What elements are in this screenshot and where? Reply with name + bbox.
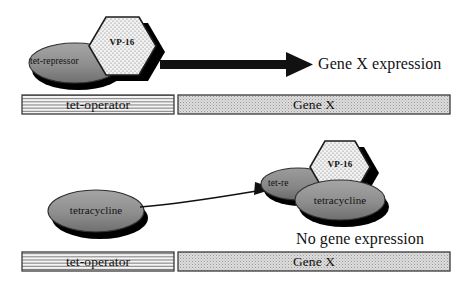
vp16-hexagon-label: VP-16 xyxy=(98,38,146,47)
diagram-labels: VP-16 tet-repressor Gene X expression te… xyxy=(0,0,473,284)
gene-x-label-2: Gene X xyxy=(178,255,450,269)
tet-repressor-label: tet-repressor xyxy=(30,57,79,67)
tet-repressor-label-clip-2: tet-re xyxy=(268,178,304,192)
tet-repressor-label-2: tet-re xyxy=(268,179,289,189)
tet-repressor-label-clip: tet-repressor xyxy=(30,55,122,71)
tet-regulation-figure: VP-16 tet-repressor Gene X expression te… xyxy=(0,0,473,284)
no-gene-expression-label: No gene expression xyxy=(296,231,424,247)
tet-operator-label-2: tet-operator xyxy=(22,255,174,269)
bound-tetracycline-label: tetracycline xyxy=(294,195,386,206)
vp16-hexagon-label-2: VP-16 xyxy=(316,160,364,169)
free-tetracycline-label: tetracycline xyxy=(48,205,144,216)
gene-x-expression-label: Gene X expression xyxy=(318,56,441,72)
gene-x-label: Gene X xyxy=(178,98,450,112)
tet-operator-label: tet-operator xyxy=(22,98,174,112)
